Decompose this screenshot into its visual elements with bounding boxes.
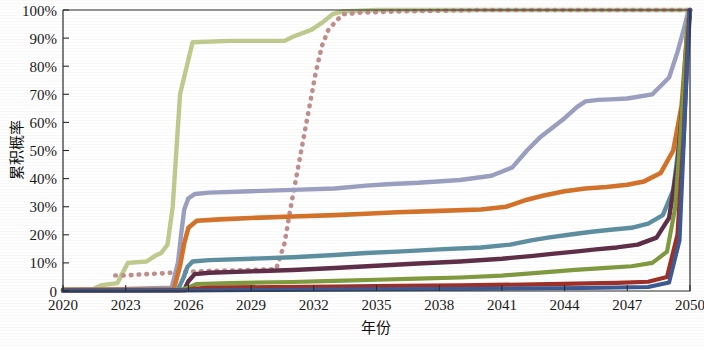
x-tick-label: 2029	[236, 297, 266, 313]
cumulative-probability-chart: 010%20%30%40%50%60%70%80%90%100%20202023…	[0, 0, 704, 346]
x-tick-label: 2023	[111, 297, 141, 313]
y-tick-label: 10%	[30, 255, 58, 271]
y-tick-label: 30%	[30, 199, 58, 215]
y-tick-label: 40%	[30, 171, 58, 187]
y-axis-title: 累积概率	[8, 120, 26, 180]
x-tick-label: 2047	[612, 297, 643, 313]
y-tick-label: 50%	[30, 143, 58, 159]
x-tick-label: 2038	[424, 297, 454, 313]
y-tick-label: 100%	[22, 3, 57, 19]
y-tick-label: 80%	[30, 59, 58, 75]
x-tick-label: 2041	[487, 297, 517, 313]
x-tick-label: 2044	[550, 297, 581, 313]
chart-canvas: 010%20%30%40%50%60%70%80%90%100%20202023…	[0, 0, 704, 346]
x-axis-title: 年份	[361, 319, 391, 337]
x-tick-label: 2026	[173, 297, 204, 313]
x-tick-label: 2035	[362, 297, 392, 313]
y-tick-label: 90%	[30, 31, 58, 47]
y-tick-label: 70%	[30, 87, 58, 103]
x-tick-label: 2032	[299, 297, 329, 313]
y-tick-label: 60%	[30, 115, 58, 131]
x-tick-label: 2050	[675, 297, 704, 313]
y-tick-label: 20%	[30, 227, 58, 243]
x-tick-label: 2020	[48, 297, 78, 313]
